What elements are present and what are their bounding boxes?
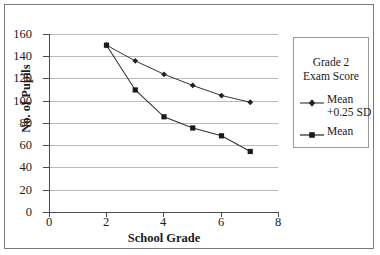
legend-label-line2: +0.25 SD (327, 106, 371, 118)
y-tick-label-0: 0 (0, 206, 32, 218)
legend-label-line1: Mean (327, 125, 353, 137)
square-marker-icon (299, 127, 325, 139)
legend-label-mean-plus-sd: Mean +0.25 SD (327, 93, 373, 119)
data-point (190, 83, 196, 89)
series-line-0 (107, 45, 251, 102)
legend-label-mean: Mean (327, 125, 373, 138)
x-tick-label-6: 6 (209, 215, 233, 229)
data-point (247, 99, 253, 105)
data-point (132, 58, 138, 64)
data-point (190, 125, 195, 130)
diamond-marker-icon (299, 95, 325, 107)
data-point (161, 114, 166, 119)
legend: Grade 2 Exam Score Mean +0.25 SD (293, 37, 369, 148)
x-tick-label-4: 4 (151, 215, 175, 229)
legend-label-line1: Mean (327, 93, 353, 105)
legend-title: Grade 2 Exam Score (294, 55, 368, 83)
data-point (104, 43, 109, 48)
data-point (133, 87, 138, 92)
x-tick-label-0: 0 (37, 215, 61, 229)
data-point (219, 93, 225, 99)
chart-frame: 160 140 120 100 80 60 40 20 0 0 2 4 6 8 … (4, 4, 374, 249)
x-tick-label-8: 8 (266, 215, 290, 229)
series-line-1 (107, 45, 251, 151)
data-point (219, 133, 224, 138)
data-point (161, 71, 167, 77)
legend-title-line2: Exam Score (294, 69, 368, 83)
x-tick-label-2: 2 (94, 215, 118, 229)
x-axis-title: School Grade (49, 231, 279, 246)
data-point (248, 149, 253, 154)
y-tick-label-20: 20 (0, 184, 32, 196)
legend-title-line1: Grade 2 (294, 55, 368, 69)
y-axis-title: No. of Pupils (19, 39, 34, 159)
y-tick-label-40: 40 (0, 161, 32, 173)
series-plot (49, 34, 279, 213)
